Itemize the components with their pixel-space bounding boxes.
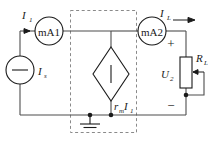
dep-source-node-dot bbox=[109, 113, 114, 118]
label-dep-var-sub: 1 bbox=[130, 107, 134, 115]
meter-label-left: mA1 bbox=[38, 26, 60, 38]
wiper-tap-node-dot bbox=[184, 93, 189, 98]
polarity-plus: + bbox=[167, 36, 174, 51]
ground-node-dot bbox=[88, 113, 93, 118]
label-load-resistor-base: R bbox=[195, 52, 203, 64]
label-dependent-source: r m I 1 bbox=[114, 100, 134, 115]
label-source-current-sub: s bbox=[44, 72, 47, 80]
label-dep-var-base: I bbox=[123, 100, 129, 112]
polarity-minus: − bbox=[167, 98, 174, 113]
label-load-voltage-sub: 2 bbox=[170, 75, 174, 83]
label-input-current-sub: 1 bbox=[29, 16, 33, 24]
label-load-resistor-sub: L bbox=[203, 59, 208, 67]
label-load-resistor: R L bbox=[195, 52, 208, 67]
meter-label-right: mA2 bbox=[141, 26, 163, 38]
label-source-current: I s bbox=[37, 65, 47, 80]
label-input-current-base: I bbox=[21, 9, 27, 21]
label-load-current-sub: L bbox=[166, 14, 171, 22]
current-arrow-out-icon bbox=[188, 17, 195, 22]
label-load-voltage-base: U bbox=[161, 68, 170, 80]
label-load-current-base: I bbox=[159, 7, 165, 19]
label-source-current-base: I bbox=[37, 65, 43, 77]
potentiometer-icon bbox=[180, 57, 192, 88]
circuit-diagram: mA1 mA2 I 1 I s bbox=[0, 0, 213, 143]
label-load-voltage: U 2 bbox=[161, 68, 174, 83]
wiper-arrow-head-icon bbox=[193, 70, 198, 75]
current-arrow-in-icon bbox=[24, 29, 30, 34]
label-input-current: I 1 bbox=[21, 9, 33, 24]
